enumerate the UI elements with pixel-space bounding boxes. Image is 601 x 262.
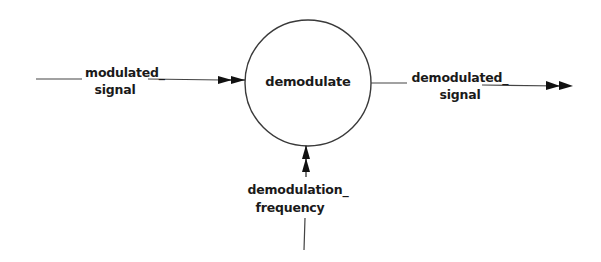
control-flow-label-line2: frequency	[240, 200, 340, 215]
diagram-canvas	[0, 0, 601, 262]
input-flow-label-line1: modulated_	[80, 65, 170, 80]
control-flow-arrow	[302, 145, 310, 250]
control-flow-label-line1: demodulation_	[228, 182, 368, 197]
double-arrowhead-icon	[218, 76, 232, 84]
input-flow-label-line2: signal	[80, 82, 150, 97]
output-flow-label-line1: demodulated_	[405, 70, 515, 85]
output-flow-label-line2: signal	[425, 87, 495, 102]
data-flow-diagram: demodulate modulated_ signal demodulated…	[0, 0, 601, 262]
double-arrowhead-icon	[302, 145, 310, 159]
double-arrowhead-icon	[546, 81, 560, 90]
process-label: demodulate	[248, 74, 368, 89]
